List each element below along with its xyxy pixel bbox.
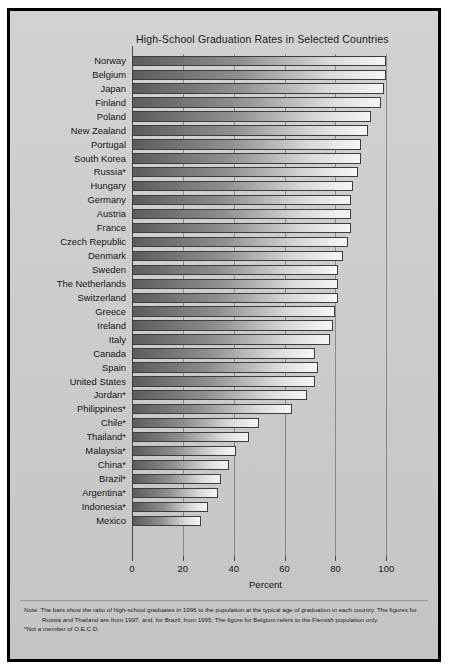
x-tick-mark	[335, 556, 336, 561]
bar-row: Thailand*	[132, 430, 399, 444]
bar-label: Greece	[95, 307, 126, 316]
bar	[132, 306, 335, 316]
x-tick-label: 80	[330, 563, 341, 574]
bar-row: The Netherlands	[132, 277, 399, 291]
bar	[132, 488, 218, 498]
x-tick-label: 0	[129, 563, 134, 574]
bar	[132, 111, 371, 121]
bar-row: China*	[132, 458, 399, 472]
bar-row: Spain	[132, 361, 399, 375]
bar	[132, 167, 358, 177]
bar	[132, 446, 236, 456]
bar-label: New Zealand	[71, 126, 126, 135]
bar	[132, 404, 292, 414]
bar-label: Philippines*	[77, 405, 126, 414]
bar-label: Austria	[97, 210, 126, 219]
bar-label: Japan	[100, 84, 126, 93]
plot-area: NorwayBelgiumJapanFinlandPolandNew Zeala…	[132, 54, 399, 556]
chart-screenshot: High-School Graduation Rates in Selected…	[0, 0, 449, 671]
x-tick-label: 60	[279, 563, 290, 574]
bar-label: South Korea	[74, 154, 126, 163]
bar	[132, 334, 330, 344]
bar-label: Brazil*	[99, 474, 126, 483]
x-tick-mark	[386, 556, 387, 561]
bar-row: Germany	[132, 193, 399, 207]
bar	[132, 83, 384, 93]
bar-label: Hungary	[91, 182, 126, 191]
bar	[132, 265, 338, 275]
bar-row: United States	[132, 375, 399, 389]
bar	[132, 209, 351, 219]
x-tick-mark	[183, 556, 184, 561]
bar	[132, 70, 386, 80]
bar	[132, 237, 348, 247]
bar-label: Sweden	[92, 265, 126, 274]
bar-label: France	[97, 224, 126, 233]
bar-row: Ireland	[132, 319, 399, 333]
bar	[132, 348, 315, 358]
bar-row: Jordan*	[132, 389, 399, 403]
bar-label: Canada	[93, 349, 126, 358]
bar-label: Mexico	[96, 516, 126, 525]
bar-row: Sweden	[132, 263, 399, 277]
bar	[132, 376, 315, 386]
bar-label: Malaysia*	[85, 447, 126, 456]
bar	[132, 125, 368, 135]
bar-row: New Zealand	[132, 124, 399, 138]
bar-label: Denmark	[88, 251, 126, 260]
bar-row: Chile*	[132, 416, 399, 430]
bar-label: Norway	[94, 56, 126, 65]
bar-row: South Korea	[132, 152, 399, 166]
bar-row: Russia*	[132, 166, 399, 180]
bar-label: Ireland	[97, 321, 126, 330]
bar-label: Spain	[102, 363, 126, 372]
bar	[132, 516, 201, 526]
bar-label: Belgium	[92, 70, 126, 79]
bar	[132, 153, 361, 163]
bar-label: Poland	[97, 112, 126, 121]
bar-label: China*	[98, 460, 126, 469]
bar	[132, 432, 249, 442]
x-tick-label: 20	[178, 563, 189, 574]
x-tick-mark	[234, 556, 235, 561]
bar-label: United States	[70, 377, 126, 386]
x-tick-mark	[285, 556, 286, 561]
bar	[132, 362, 318, 372]
bar	[132, 251, 343, 261]
bar-row: France	[132, 221, 399, 235]
bar-label: Argentina*	[82, 488, 126, 497]
bar-row: Denmark	[132, 249, 399, 263]
bar	[132, 97, 381, 107]
x-tick-mark	[132, 556, 133, 561]
bar-row: Poland	[132, 110, 399, 124]
bar-row: Greece	[132, 305, 399, 319]
x-tick-label: 40	[228, 563, 239, 574]
bar-row: Switzerland	[132, 291, 399, 305]
bar-row: Malaysia*	[132, 444, 399, 458]
bar	[132, 279, 338, 289]
x-tick-label: 100	[378, 563, 394, 574]
bar-label: Russia*	[94, 168, 126, 177]
bar-label: Italy	[109, 335, 126, 344]
bar-row: Japan	[132, 82, 399, 96]
bar	[132, 181, 353, 191]
bar-row: Mexico	[132, 514, 399, 528]
bar	[132, 293, 338, 303]
footnote-note: Note: The bars show the ratio of high-sc…	[20, 605, 428, 624]
bar	[132, 460, 229, 470]
bar	[132, 390, 307, 400]
bar-row: Czech Republic	[132, 235, 399, 249]
bar-row: Hungary	[132, 179, 399, 193]
bar-label: Indonesia*	[82, 502, 126, 511]
bar-row: Belgium	[132, 68, 399, 82]
x-axis-title: Percent	[132, 579, 399, 590]
chart-title: High-School Graduation Rates in Selected…	[136, 33, 389, 45]
bar-label: Czech Republic	[60, 237, 126, 246]
bar-label: The Netherlands	[57, 279, 126, 288]
bar-row: Indonesia*	[132, 500, 399, 514]
bar	[132, 195, 351, 205]
footnote-divider	[20, 600, 428, 601]
bar	[132, 474, 221, 484]
bar-label: Chile*	[101, 419, 126, 428]
bar-row: Norway	[132, 54, 399, 68]
